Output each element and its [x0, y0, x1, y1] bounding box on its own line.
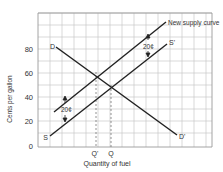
supply-curve	[50, 44, 167, 136]
supply-demand-chart: 80 60 40 20 0 Cents per gallon Quantity …	[0, 0, 223, 172]
y-tick-60: 60	[25, 69, 33, 78]
demand-label-end: D'	[179, 133, 185, 140]
demand-label-start: D	[50, 43, 55, 50]
supply-label-end: S'	[169, 39, 175, 46]
new-supply-label: New supply curve	[168, 19, 220, 27]
shift-label-right: 20¢	[143, 43, 154, 50]
y-tick-20: 20	[25, 117, 33, 126]
x-axis-label: Quantity of fuel	[83, 160, 131, 168]
y-tick-80: 80	[25, 45, 33, 54]
y-tick-40: 40	[25, 93, 33, 102]
axes	[38, 13, 212, 147]
x-tick-q: Q	[108, 150, 114, 158]
grid	[38, 13, 212, 147]
y-tick-0: 0	[29, 142, 33, 151]
y-axis-label: Cents per gallon	[6, 75, 14, 123]
x-tick-qprime: Q'	[92, 150, 99, 158]
supply-label-start: S	[43, 134, 48, 141]
shift-label-left: 20¢	[61, 106, 72, 113]
